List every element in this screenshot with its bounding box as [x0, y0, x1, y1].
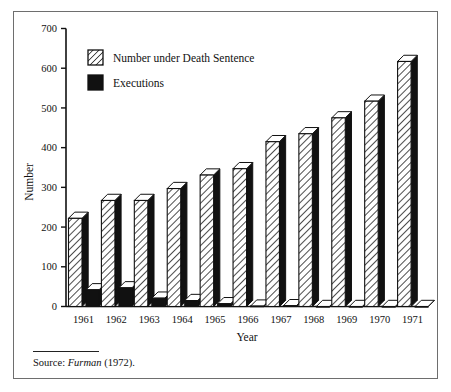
chart-plot-area: 0100200300400500600700 Number 1961196219… [0, 0, 451, 392]
y-axis-tick-label: 300 [41, 182, 57, 193]
y-axis-tick-labels: 0100200300400500600700 [41, 23, 57, 312]
bar-front-face [119, 288, 132, 307]
bar-side-face [312, 128, 318, 307]
bar-front-face [398, 61, 412, 306]
y-axis: 0100200300400500600700 Number [23, 23, 66, 312]
x-axis-tick-labels: 1961196219631964196519661967196819691970… [73, 314, 423, 325]
x-axis-tick-label: 1967 [270, 314, 291, 325]
bar-side-face [247, 162, 253, 306]
figure-chart-death-sentences: 0100200300400500600700 Number 1961196219… [0, 0, 451, 392]
legend-item-death-sentence: Number under Death Sentence [88, 50, 254, 65]
bar-front-face [283, 306, 296, 307]
bar-top-face [415, 300, 434, 306]
bar-front-face [167, 189, 181, 307]
bar-death-sentence-1971 [398, 55, 418, 306]
x-axis-tick-label: 1961 [73, 314, 94, 325]
bar-side-face [378, 95, 384, 307]
y-axis-tick-label: 700 [41, 23, 57, 34]
x-axis-tick-label: 1968 [303, 314, 324, 325]
bar-death-sentence-1970 [365, 95, 385, 307]
bar-death-sentence-1962 [101, 194, 121, 306]
bar-front-face [69, 218, 83, 306]
bar-front-face [349, 307, 362, 308]
x-axis-tick-label: 1969 [336, 314, 357, 325]
bar-death-sentence-1963 [134, 194, 154, 306]
bar-death-sentence-1968 [299, 128, 319, 307]
bar-group [69, 55, 435, 307]
x-axis-tick-label: 1966 [238, 314, 259, 325]
bar-side-face [279, 135, 285, 306]
x-axis-tick-label: 1965 [205, 314, 226, 325]
legend-swatch-solid-icon [88, 75, 103, 90]
source-citation-title: Furman [68, 357, 102, 368]
x-axis-tick-label: 1971 [402, 314, 423, 325]
bar-executions-1971 [415, 300, 434, 307]
bar-death-sentence-1964 [167, 182, 187, 306]
bar-death-sentence-1966 [233, 162, 253, 306]
bar-front-face [200, 175, 214, 306]
bar-side-face [411, 55, 417, 306]
y-axis-tick-label: 500 [41, 103, 57, 114]
bar-front-face [365, 101, 379, 306]
bar-death-sentence-1961 [69, 212, 89, 306]
bar-front-face [251, 306, 264, 307]
bar-side-face [345, 112, 351, 307]
bar-front-face [218, 304, 231, 307]
x-axis-tick-label: 1964 [172, 314, 194, 325]
bar-death-sentence-1967 [266, 135, 286, 306]
bar-front-face [299, 134, 313, 307]
x-axis: 1961196219631964196519661967196819691970… [66, 307, 428, 344]
source-note: Source: Furman (1972). [33, 357, 135, 368]
y-axis-tick-label: 600 [41, 63, 57, 74]
x-axis-title: Year [236, 331, 257, 343]
y-axis-title: Number [23, 163, 35, 201]
legend-label-death-sentence: Number under Death Sentence [113, 52, 254, 64]
source-citation-year: (1972). [104, 357, 135, 368]
bar-front-face [266, 142, 280, 307]
legend-label-executions: Executions [113, 77, 165, 89]
bar-side-face [181, 182, 187, 306]
bar-side-face [214, 169, 220, 307]
y-axis-tick-label: 400 [41, 142, 57, 153]
bar-front-face [185, 301, 198, 307]
bar-death-sentence-1969 [332, 112, 352, 307]
y-axis-tick-label: 200 [41, 222, 57, 233]
bar-front-face [415, 307, 428, 308]
bar-front-face [233, 169, 247, 307]
bar-death-sentence-1965 [200, 169, 220, 307]
bar-front-face [316, 307, 329, 308]
y-axis-tick-label: 0 [52, 301, 57, 312]
bar-front-face [101, 200, 115, 306]
bar-front-face [134, 200, 148, 306]
legend-item-executions: Executions [88, 75, 165, 90]
source-prefix: Source: [33, 357, 65, 368]
legend-swatch-hatched-icon [88, 50, 103, 65]
x-axis-tick-label: 1963 [139, 314, 160, 325]
bar-front-face [332, 118, 346, 307]
y-axis-tick-label: 100 [41, 261, 57, 272]
x-axis-tick-label: 1970 [369, 314, 390, 325]
bar-front-face [152, 298, 165, 306]
x-axis-tick-label: 1962 [106, 314, 127, 325]
bar-side-face [148, 194, 154, 306]
source-divider [33, 351, 99, 352]
bar-front-face [86, 290, 99, 307]
chart-legend: Number under Death Sentence Executions [88, 50, 254, 90]
bar-front-face [382, 307, 395, 308]
